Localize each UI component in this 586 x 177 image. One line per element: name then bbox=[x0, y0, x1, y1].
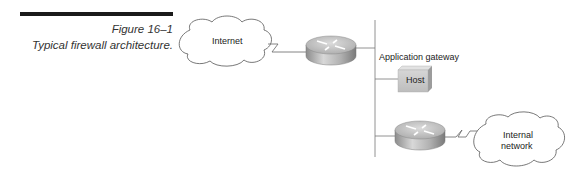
app-gateway-label: Application gateway bbox=[379, 52, 459, 63]
router-inner-icon bbox=[395, 121, 445, 150]
internal-label-line2: network bbox=[501, 141, 533, 152]
serial-link-icon bbox=[445, 130, 478, 137]
host-label: Host bbox=[406, 75, 425, 86]
serial-link-icon bbox=[268, 44, 306, 52]
network-diagram bbox=[0, 0, 586, 177]
internet-label: Internet bbox=[212, 36, 243, 47]
router-outer-icon bbox=[306, 36, 356, 65]
internal-label-line1: Internal bbox=[503, 130, 533, 141]
